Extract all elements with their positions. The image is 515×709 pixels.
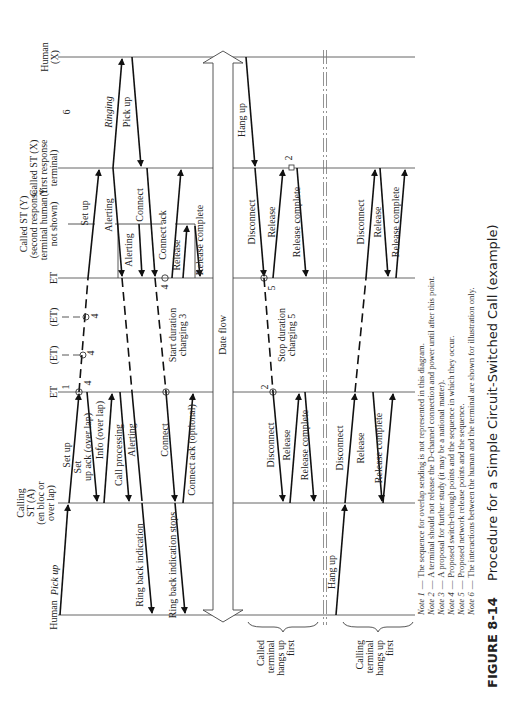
lifelines [58,57,415,615]
label-calling-first-4: first [384,640,395,656]
marker-4a: 4 [82,381,93,386]
label-hang-up-a: Hang up [326,555,337,589]
label-release-complete-3: Release complete [373,412,384,483]
label-disconnect-4: Disconnect [355,199,366,244]
label-ring-back: Ring back indication [134,523,145,606]
label-et-transit-1: (ET) [48,308,60,327]
marker-4c: 4 [89,314,100,319]
label-disconnect-2: Disconnect [265,422,276,467]
label-set-up-ack-2: up ack (over lap) [82,413,94,481]
msg-disconnect-3 [345,394,355,503]
msg-alerting-y [139,224,142,276]
figure-title: Procedure for a Simple Circuit-Switched … [485,224,500,580]
label-et-calling: ET [48,386,59,398]
figure-number: FIGURE 8-14 [485,597,500,688]
msg-set-up-network [79,278,88,392]
msg-release-complete-3 [383,394,393,503]
msg-pick-up-x [132,57,141,166]
label-release-3: Release [355,432,366,464]
msg-alerting-network [122,278,132,392]
label-release-4: Release [372,206,383,238]
label-info: Info (over lap) [94,401,106,459]
marker-2b: 2 [283,156,294,161]
label-called-first-4: first [285,640,296,656]
note-4: Note 4—Proposed switch-through points an… [446,336,456,616]
svg-text:Note 6—The interactions betwee: Note 6—The interactions between the huma… [466,287,476,616]
marker-4b: 4 [85,351,96,356]
marker-4d: 4 [159,285,170,290]
label-ring-back-stops: Ring back indication stops [167,512,178,618]
label-connect-x: Connect [134,188,145,222]
note-5: Note 5—Proposed network release points a… [456,403,466,616]
msg-alerting-x [113,168,122,276]
msg-disconnect-network-2 [355,278,366,392]
label-release-complete-4: Release complete [390,186,401,257]
label-pick-up-x: Pick up [121,97,132,127]
label-ringing: Ringing [103,96,114,129]
label-connect-ack-optional: Connect ack (optional) [186,404,198,496]
svg-text:Note 4—Proposed switch-through: Note 4—Proposed switch-through points an… [446,336,456,616]
label-disconnect-3: Disconnect [334,425,345,470]
label-release-1: Release [266,206,277,238]
note-6: Note 6—The interactions between the huma… [466,287,476,616]
label-calling-4: over lap) [45,485,57,521]
note-1: Note 1—The sequence for overlap sending … [416,343,426,616]
label-release-complete-2: Release complete [299,409,310,480]
msg-connect-x [147,168,155,276]
note-3: Note 3—A proposal for further study (it … [436,380,446,616]
svg-text:FIGURE 8-14 Procedure fo: FIGURE 8-14 Procedure for a Simple Circu… [485,224,500,688]
label-release-2: Release [281,429,292,461]
marker-6: 6 [61,110,72,115]
sequence-diagram: Human (X) Called ST (X) (first response … [0,0,515,709]
label-connect-ack: Connect ack [157,210,168,260]
msg-info [104,394,112,503]
scenario-braces [248,622,413,632]
label-set-up-y: Set up [79,200,90,225]
svg-text:Note 1—The sequence for overla: Note 1—The sequence for overlap sending … [416,343,426,616]
label-alerting-a: Alerting [126,423,137,456]
label-stop-duration-2: charging 5 [286,314,297,356]
label-set-up-a: Set up [61,442,72,467]
label-called-y-4: not shown) [48,202,60,247]
label-disconnect-1: Disconnect [246,199,257,244]
scenario-separator [324,50,327,625]
svg-text:Note 2—A terminal should not r: Note 2—A terminal should not release the… [426,276,436,616]
msg-disconnect-network [264,278,273,392]
label-release-complete-1: Release complete [291,186,302,257]
msg-release-y [183,226,187,278]
label-data-flow: Date flow [217,314,228,354]
label-release-complete-y: Release complete [194,204,205,275]
label-connect-a: Connect [159,423,170,457]
label-pick-up-a: Pick up [49,565,60,596]
label-release-y: Release [171,239,182,271]
label-called-x-3: terminal) [48,150,60,187]
label-human-x-2: (X) [49,50,61,64]
label-et-called: ET [48,272,59,284]
svg-text:Note 5—Proposed network releas: Note 5—Proposed network release points a… [456,403,466,616]
label-alerting-x: Alerting [103,198,114,231]
note2-marker-square [289,165,294,170]
figure-caption: FIGURE 8-14 Procedure for a Simple Circu… [485,224,500,688]
msg-hang-up-x [246,57,255,166]
msg-hang-up-a [336,505,345,615]
msg-pick-up-a [60,505,68,615]
marker-1: 1 [60,385,71,390]
marker-5: 5 [266,286,277,291]
label-hang-up-x: Hang up [236,103,247,137]
label-et-transit-2: (ET) [48,346,60,365]
note-2: Note 2—A terminal should not release the… [426,276,436,616]
lifeline-labels: Human (X) Called ST (X) (first response … [15,42,61,629]
label-call-processing: Call processing [113,424,124,486]
label-alerting-y: Alerting [123,233,134,266]
label-start-duration-2: charging 3 [177,314,188,356]
marker-2a: 2 [259,385,270,390]
scenario-labels: Called terminal hangs up first Calling t… [255,640,395,676]
notes: Note 1—The sequence for overlap sending … [416,276,476,616]
label-human-a: Human [48,600,59,629]
msg-connect-network [155,278,166,392]
svg-text:Note 3—A proposal for further: Note 3—A proposal for further study (it … [436,380,446,616]
